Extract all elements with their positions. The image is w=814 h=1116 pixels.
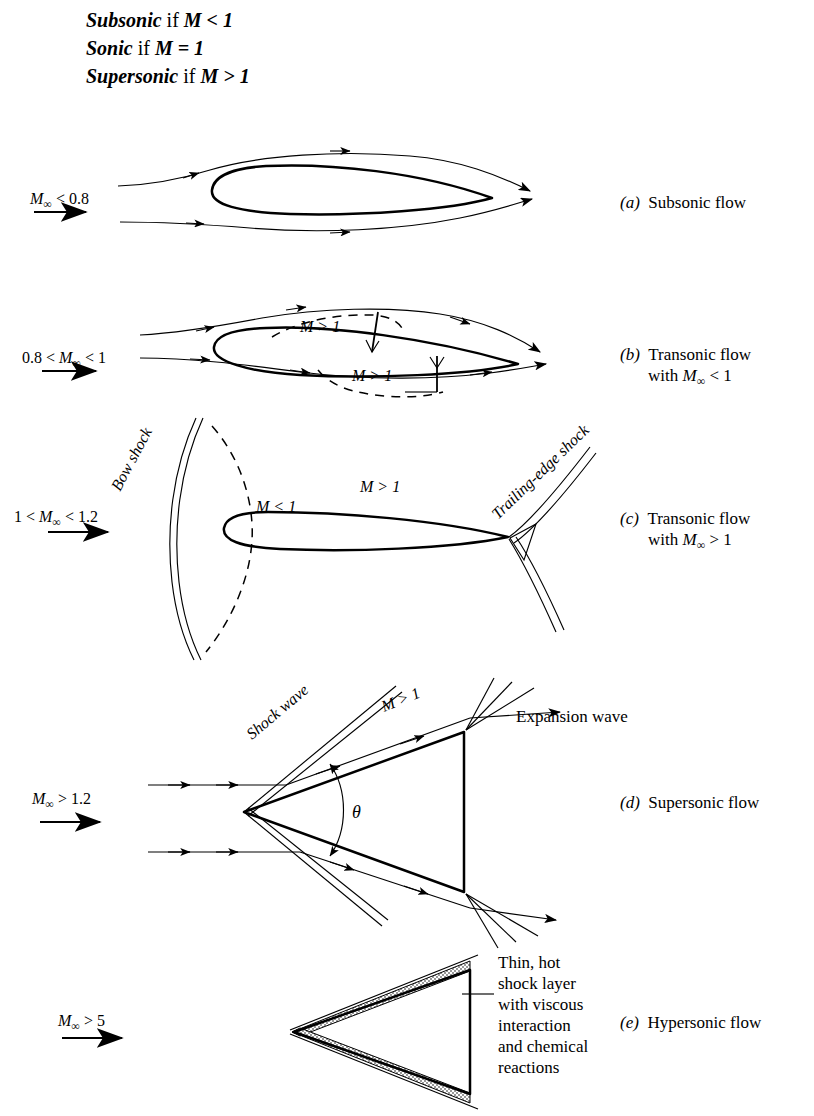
mach-label-e: M∞ > 5 [58,1012,105,1034]
shock-layer-lower-e [292,1028,470,1103]
caption-e: (e) Hypersonic flow [620,1012,761,1033]
annotation-line-1: Thin, hot [498,952,588,973]
hyper-shock-upper-e [290,955,478,1030]
annotation-line-2: shock layer [498,973,588,994]
hyper-shock-lower-e [290,1034,478,1109]
annotation-line-6: reactions [498,1057,588,1078]
shock-layer-upper-e [292,961,470,1036]
panel-e-diagram [0,0,814,1116]
annotation-shock-layer-e: Thin, hot shock layer with viscous inter… [498,952,588,1078]
annotation-line-5: and chemical [498,1036,588,1057]
wedge-body-e [294,970,470,1094]
annotation-line-4: interaction [498,1015,588,1036]
annotation-line-3: with viscous [498,994,588,1015]
